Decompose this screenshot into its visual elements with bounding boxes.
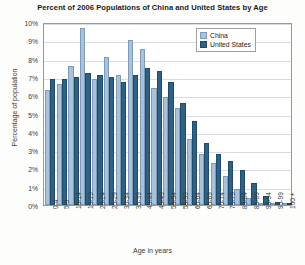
bar-group [103, 24, 115, 205]
legend-item-united-states[interactable]: United States [200, 40, 251, 49]
x-tick-label: 75-79 [229, 192, 236, 209]
bar-united-states[interactable] [74, 77, 79, 205]
x-tick-label: 50-54 [170, 192, 177, 209]
chart-title: Percent of 2006 Populations of China and… [0, 3, 305, 12]
y-tick-label: 2% [0, 166, 38, 173]
legend-item-china[interactable]: China [200, 31, 251, 40]
y-tick-label: 8% [0, 56, 38, 63]
x-axis-title: Age in years [0, 247, 305, 254]
y-tick-label: 3% [0, 148, 38, 155]
bar-united-states[interactable] [157, 71, 162, 205]
y-tick-label: 0% [0, 203, 38, 210]
bar-group [269, 24, 281, 205]
x-tick-label: 30-34 [123, 192, 130, 209]
bar-group [139, 24, 151, 205]
x-tick-label: 10-14 [75, 192, 82, 209]
bar-group [44, 24, 56, 205]
bar-united-states[interactable] [180, 103, 185, 205]
x-tick-label: 25-29 [111, 192, 118, 209]
y-tick-label: 5% [0, 111, 38, 118]
legend-label-united-states: United States [210, 41, 251, 48]
bar-united-states[interactable] [85, 73, 90, 205]
x-tick-label: 70-74 [218, 192, 225, 209]
legend-label-china: China [210, 32, 228, 39]
x-tick-label: 65-69 [206, 192, 213, 209]
x-tick-label: 35-39 [135, 192, 142, 209]
x-tick-label: 55-59 [182, 192, 189, 209]
legend: China United States [196, 28, 256, 52]
bar-group [127, 24, 139, 205]
x-tick-label: 80-84 [241, 192, 248, 209]
y-tick-label: 7% [0, 74, 38, 81]
y-tick-label: 9% [0, 38, 38, 45]
legend-swatch-united-states-icon [200, 41, 207, 48]
x-tick-label: 20-24 [99, 192, 106, 209]
chart-container: Percent of 2006 Populations of China and… [0, 0, 305, 265]
bar-group [151, 24, 163, 205]
y-tick-label: 6% [0, 93, 38, 100]
legend-swatch-china-icon [200, 32, 207, 39]
bar-group [115, 24, 127, 205]
x-tick-label: 15-19 [87, 192, 94, 209]
x-tick-label: 60-64 [194, 192, 201, 209]
bar-united-states[interactable] [109, 77, 114, 205]
bar-united-states[interactable] [121, 82, 126, 205]
x-tick-label: 100 + [289, 192, 296, 209]
bar-group [68, 24, 80, 205]
bar-united-states[interactable] [168, 82, 173, 205]
x-tick-label: 40-44 [146, 192, 153, 209]
bar-united-states[interactable] [62, 79, 67, 205]
x-tick-label: 85-89 [253, 192, 260, 209]
bar-group [91, 24, 103, 205]
bar-united-states[interactable] [97, 75, 102, 205]
x-tick-label: 45-49 [158, 192, 165, 209]
bar-united-states[interactable] [145, 68, 150, 205]
bar-group [163, 24, 175, 205]
x-tick-label: 95-99 [277, 192, 284, 209]
x-tick-label: 0-4 [52, 199, 59, 209]
y-tick-label: 4% [0, 129, 38, 136]
bar-united-states[interactable] [50, 79, 55, 205]
bar-group [56, 24, 68, 205]
x-tick-label: 5-9 [63, 199, 70, 209]
bar-group [257, 24, 269, 205]
bar-group [80, 24, 92, 205]
x-tick-label: 90-94 [265, 192, 272, 209]
bar-group [174, 24, 186, 205]
bar-group [281, 24, 293, 205]
y-tick-label: 1% [0, 184, 38, 191]
y-tick-label: 10% [0, 20, 38, 27]
bar-united-states[interactable] [133, 75, 138, 205]
